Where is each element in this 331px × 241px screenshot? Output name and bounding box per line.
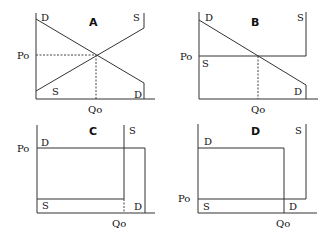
panel-c-demand-label-bottom: D	[134, 201, 142, 212]
panel-d-quantity-label: Qo	[276, 218, 290, 229]
panel-b-supply-label-bottom: S	[202, 58, 209, 69]
panel-b-demand-curve	[199, 20, 306, 99]
panel-c-supply-label-top: S	[129, 125, 136, 136]
panel-b: B D D S S Po Qo	[180, 12, 318, 115]
panel-d-supply-label-bottom: S	[203, 201, 210, 212]
panel-c-quantity-label: Qo	[112, 218, 126, 229]
panel-c-demand-label-top: D	[41, 137, 49, 148]
panel-c: C D D S S Po Qo	[17, 125, 155, 229]
panel-a-quantity-label: Qo	[88, 104, 102, 115]
panel-d-supply-label-top: S	[295, 125, 302, 136]
panel-b-demand-label-top: D	[205, 12, 213, 23]
panel-d: D D D S S Po Qo	[178, 124, 317, 229]
panel-b-price-label: Po	[180, 51, 192, 62]
panel-b-supply-label-top: S	[297, 12, 304, 23]
panel-b-demand-label-bottom: D	[294, 86, 302, 97]
panel-d-title: D	[251, 125, 260, 138]
panel-a-supply-label-top: S	[133, 12, 140, 23]
panel-a-price-label: Po	[17, 50, 29, 61]
panel-d-price-label: Po	[178, 193, 190, 204]
panel-c-supply-label-bottom: S	[42, 200, 49, 211]
panel-b-quantity-label: Qo	[251, 104, 265, 115]
panel-d-demand-label-top: D	[204, 136, 212, 147]
panel-b-title: B	[251, 16, 259, 29]
panel-a-supply-label-bottom: S	[52, 86, 59, 97]
panel-c-title: C	[89, 125, 97, 138]
panel-c-demand-curve	[37, 148, 145, 213]
panel-c-price-label: Po	[17, 143, 29, 154]
panel-a-demand-label-top: D	[41, 12, 49, 23]
panel-a-title: A	[89, 16, 98, 29]
supply-demand-diagram: A D D S S Po Qo B D D S S Po Qo C D D S …	[0, 0, 331, 241]
panel-d-demand-curve	[198, 148, 284, 213]
panel-d-demand-label-bottom: D	[289, 201, 297, 212]
panel-c-supply-curve	[37, 125, 124, 199]
panel-a-demand-label-bottom: D	[134, 89, 142, 100]
panel-a: A D D S S Po Qo	[17, 12, 155, 115]
